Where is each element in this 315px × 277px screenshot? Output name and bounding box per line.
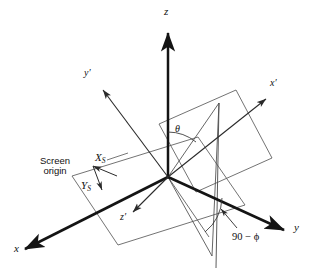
screen-y-axis-label: YS xyxy=(81,180,91,193)
screen-origin-line-2: origin xyxy=(43,165,66,176)
screen-x-axis-label: XS xyxy=(95,152,105,165)
screen-x-letter: X xyxy=(95,151,102,163)
coordinate-system-diagram: z x y x′ y′ z′ Screen origin XS YS θ 90 … xyxy=(0,0,315,277)
axis-label-x: x xyxy=(14,243,19,255)
axis-label-y: y xyxy=(294,222,299,234)
phi-symbol: ϕ xyxy=(254,231,260,242)
diagram-canvas xyxy=(0,0,315,277)
axis-z-prime-line xyxy=(133,177,168,212)
screen-origin-label: Screen origin xyxy=(40,156,70,176)
phi-number: 90 xyxy=(232,231,243,242)
screen-x-subscript: S xyxy=(102,156,106,165)
phi-leader-line xyxy=(221,209,237,228)
screen-y-subscript: S xyxy=(87,184,91,193)
axis-y-prime-line xyxy=(103,90,168,177)
theta-angle-arc xyxy=(168,132,196,142)
screen-origin-leader xyxy=(107,153,128,160)
axis-label-y-prime: y′ xyxy=(84,68,91,79)
axis-x-line xyxy=(25,177,168,249)
theta-angle-label: θ xyxy=(175,124,180,135)
phi-angle-label: 90 − ϕ xyxy=(232,231,259,242)
axis-label-x-prime: x′ xyxy=(270,78,277,89)
phi-minus-sign: − xyxy=(245,231,251,242)
axis-x-prime-line xyxy=(168,99,266,177)
axis-y-line xyxy=(168,177,284,230)
axis-label-z-prime: z′ xyxy=(120,212,126,223)
axis-label-z: z xyxy=(164,6,168,18)
